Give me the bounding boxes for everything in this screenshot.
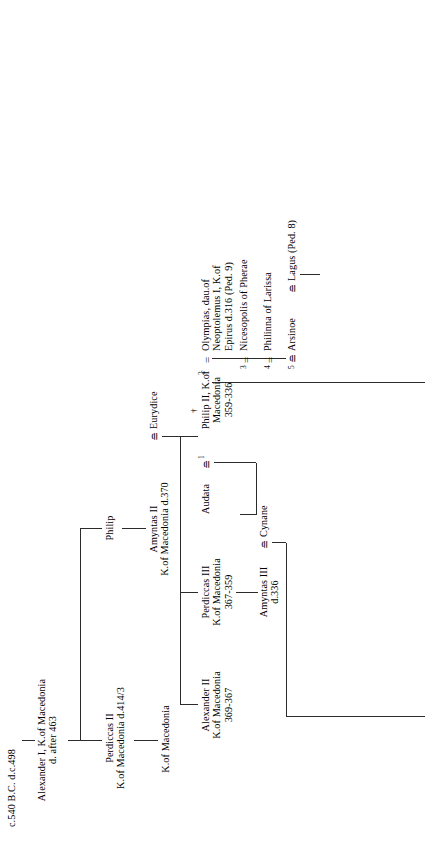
marriage-sign-philip-arsinoe: ≘ [288, 354, 299, 363]
line-to-perdiccas-iii [180, 592, 198, 593]
person-arsinoe: Arsinoe [286, 295, 297, 351]
person-alexander-ii: Alexander II K.of Macedonia 369-367 [200, 643, 234, 767]
line-philip-ii-to-children [308, 382, 425, 383]
person-amyntas-iii: Amyntas III d.336 [258, 551, 281, 633]
person-amyntas-ii: Amyntas II K.of Macedonia d.370 [148, 445, 171, 613]
person-audata: Audata [200, 471, 211, 527]
line-to-alexander-ii [180, 704, 198, 705]
person-alexander-i: Alexander I, K.of Macedonia d. after 463 [36, 645, 59, 835]
dagger-philip-ii: † [190, 409, 199, 414]
line-to-cynane [240, 514, 257, 515]
line-to-eurydice-322 [286, 716, 425, 717]
line-philip-down [122, 528, 146, 529]
line-alexander-i-stem [22, 740, 35, 741]
person-perdiccas-iii: Perdiccas III K.of Macedonia 367-359 [200, 531, 234, 653]
marriage-sign-arsinoe-lagus: ≘ [288, 284, 299, 293]
line-perdiccas-iii-down [236, 592, 258, 593]
line-gen4-bar [180, 437, 181, 705]
line-amyntas-cynane-down [272, 542, 286, 543]
line-to-ptolemy [300, 274, 320, 275]
line-audata-down [214, 462, 256, 463]
marriage-sign-philip-philinna: = [265, 357, 276, 363]
marriage-sign-audata-philip: ≘ [202, 460, 213, 469]
line-to-philip [80, 528, 102, 529]
marriage-sign-philip-nicesopolis: = [241, 357, 252, 363]
line-to-philip-ii [180, 436, 198, 437]
marriage-number-3: 3 [240, 365, 248, 369]
note-c540bc: c.540 B.C. d.c.498 [6, 707, 17, 827]
person-nicesopolis: Nicesopolis of Pherae [238, 201, 249, 351]
marriage-number-1: 1 [198, 455, 206, 459]
marriage-number-4: 4 [264, 365, 272, 369]
line-alexander-i-down [68, 740, 80, 741]
marriage-number-2: 2 [198, 371, 206, 375]
line-audata-cynane-bar [256, 463, 257, 515]
pedigree-rotation-wrapper: c.540 B.C. d.c.498 Alexander I, K.of Mac… [0, 0, 425, 845]
person-eurydice-wife: Eurydice [148, 359, 159, 429]
line-perdiccas-ii-down [134, 740, 158, 741]
line-amyntas-cynane-bar [286, 543, 287, 717]
line-amyntas-eurydice-down [162, 436, 180, 437]
person-perdiccas-ii: Perdiccas II K.of Macedonia d.414/3 [104, 649, 127, 827]
line-philip-children-trunk [212, 382, 308, 383]
marriage-number-5: 5 [288, 365, 296, 369]
marriage-sign-amyntas-eurydice: ≘ [150, 432, 161, 441]
person-cynane: Cynane [258, 477, 269, 537]
line-to-perdiccas-ii [80, 740, 102, 741]
person-philip: Philip [104, 493, 115, 563]
person-olympias: Olympias, dau.of Neoptolemus I, K.of Epi… [200, 201, 234, 351]
pedigree-chart: c.540 B.C. d.c.498 Alexander I, K.of Mac… [0, 0, 425, 845]
line-gen2-bar [80, 529, 81, 741]
person-philinna: Philinna of Larissa [262, 201, 273, 351]
person-archelaus: K.of Macedonia [160, 689, 171, 789]
person-lagus: Lagus (Ped. 8) [286, 171, 297, 281]
marriage-sign-amyntas-cynane: ≘ [260, 540, 271, 549]
